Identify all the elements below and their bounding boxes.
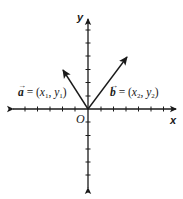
x-axis	[13, 107, 176, 112]
coordinate-plane-diagram: y x O →a = (x1, y1) →b = (x2, y2)	[0, 0, 183, 199]
equals-open-paren: = (	[24, 86, 40, 98]
close-paren: )	[155, 86, 159, 98]
vector-a-name: →a	[18, 87, 24, 99]
vector-a-label: →a = (x1, y1)	[18, 87, 67, 100]
vector-b-arrow	[88, 57, 127, 109]
y-axis-label: y	[77, 12, 83, 23]
origin-label: O	[76, 113, 85, 125]
y-axis	[86, 19, 91, 188]
vector-b-name: →b	[110, 87, 116, 99]
equals-open-paren: = (	[116, 86, 132, 98]
x-axis-label: x	[170, 115, 176, 126]
vector-b-label: →b = (x2, y2)	[110, 87, 159, 100]
close-paren: )	[63, 86, 67, 98]
vector-arrow-accent-icon: →	[18, 82, 24, 90]
vector-arrow-accent-icon: →	[110, 82, 116, 90]
